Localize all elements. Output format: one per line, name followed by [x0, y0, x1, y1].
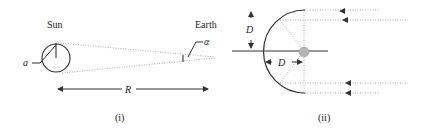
- lower-ray: [62, 58, 215, 73]
- sun-label: Sun: [47, 19, 63, 30]
- caption-ii: (ii): [318, 112, 330, 124]
- focus-point: [299, 47, 309, 57]
- radius-leader-line: [32, 45, 56, 63]
- diagram-canvas: Sun Earth a α R (i): [0, 0, 431, 134]
- horizontal-dim-label: D: [277, 57, 286, 68]
- ray-arrow-4: [345, 90, 351, 96]
- ray-arrow-1: [339, 8, 345, 14]
- vertical-dim-label: D: [245, 24, 254, 35]
- ray-arrow-2: [342, 17, 348, 23]
- angle-label: α: [204, 36, 210, 47]
- panel-i: Sun Earth a α R (i): [23, 19, 217, 124]
- earth-label: Earth: [195, 19, 217, 30]
- reflected-ray-upper: [280, 20, 304, 51]
- caption-i: (i): [115, 112, 124, 124]
- panel-ii: D D (ii): [232, 8, 408, 124]
- ray-arrow-3: [345, 80, 351, 86]
- distance-label: R: [124, 84, 131, 95]
- radius-label: a: [23, 57, 28, 68]
